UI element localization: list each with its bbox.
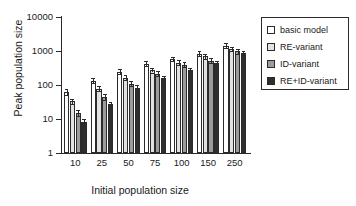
error-bar-cap	[198, 56, 202, 57]
x-axis-tick-label: 75	[150, 157, 161, 168]
error-bar-cap	[236, 54, 240, 55]
error-bar-cap	[135, 91, 139, 92]
error-bar-cap	[144, 61, 148, 62]
error-bar-cap	[129, 86, 133, 87]
y-axis-tick-label: 1000	[32, 46, 53, 55]
x-axis-tick-label: 10	[70, 157, 81, 168]
error-bar-cap	[91, 83, 95, 84]
error-bar-cap	[124, 75, 128, 76]
bar	[123, 78, 128, 153]
legend-item-label: ID-variant	[280, 59, 319, 69]
bar	[203, 56, 208, 153]
error-bar-cap	[224, 48, 228, 49]
bar	[229, 49, 234, 153]
legend-swatch-icon	[267, 43, 275, 51]
error-bar-cap	[150, 68, 154, 69]
error-bar-cap	[103, 94, 107, 95]
error-bar-cap	[198, 51, 202, 52]
error-bar-cap	[82, 119, 86, 120]
chart-figure: Peak population size Initial population …	[0, 0, 356, 206]
error-bar-cap	[162, 76, 166, 77]
error-bar-cap	[209, 58, 213, 59]
chart-legend: basic modelRE-variantID-variantRE+ID-var…	[261, 17, 349, 90]
error-bar-cap	[109, 107, 113, 108]
bar	[235, 51, 240, 153]
legend-swatch-icon	[267, 26, 275, 34]
bar	[208, 61, 213, 153]
bar	[161, 78, 166, 153]
error-bar-cap	[97, 86, 101, 87]
error-bar-cap	[215, 65, 219, 66]
bar	[96, 89, 101, 153]
bar	[214, 63, 219, 153]
error-bar-cap	[82, 126, 86, 127]
bar	[170, 59, 175, 153]
error-bar-cap	[97, 91, 101, 92]
error-bar-cap	[242, 51, 246, 52]
bar	[176, 63, 181, 153]
bar	[117, 72, 122, 153]
error-bar-cap	[171, 57, 175, 58]
error-bar-cap	[135, 85, 139, 86]
error-bar-cap	[65, 95, 69, 96]
error-bar-cap	[242, 55, 246, 56]
error-bar-cap	[156, 71, 160, 72]
bar	[197, 54, 202, 153]
error-bar-cap	[230, 47, 234, 48]
y-axis-tick-label: 10000	[27, 12, 53, 21]
y-axis-tick	[56, 153, 62, 154]
error-bar-cap	[236, 49, 240, 50]
legend-item: basic model	[267, 22, 348, 38]
error-bar-cap	[230, 51, 234, 52]
x-axis-line	[61, 153, 251, 154]
error-bar-cap	[129, 81, 133, 82]
error-bar-cap	[177, 60, 181, 61]
error-bar-cap	[65, 89, 69, 90]
x-axis-title: Initial population size	[40, 184, 240, 196]
legend-item-label: basic model	[280, 25, 328, 35]
error-bar-cap	[91, 78, 95, 79]
bar	[108, 104, 113, 153]
error-bar-cap	[124, 80, 128, 81]
x-axis-tick-label: 100	[174, 157, 190, 168]
bar	[135, 88, 140, 153]
plot-area	[62, 17, 248, 153]
legend-swatch-icon	[267, 77, 275, 85]
legend-item: RE-variant	[267, 39, 348, 55]
bar	[150, 70, 155, 153]
error-bar-cap	[209, 63, 213, 64]
legend-item-label: RE+ID-variant	[280, 76, 337, 86]
x-axis-tick-label: 150	[200, 157, 216, 168]
error-bar-cap	[76, 116, 80, 117]
error-bar-cap	[70, 99, 74, 100]
error-bar-cap	[183, 62, 187, 63]
error-bar-cap	[171, 61, 175, 62]
error-bar-cap	[215, 61, 219, 62]
bar	[241, 53, 246, 153]
error-bar-cap	[203, 54, 207, 55]
bar	[223, 46, 228, 153]
error-bar-cap	[156, 76, 160, 77]
y-axis-tick-label: 10	[42, 114, 53, 123]
error-bar-cap	[150, 73, 154, 74]
error-bar-cap	[188, 73, 192, 74]
error-bar-cap	[118, 74, 122, 75]
error-bar-cap	[203, 59, 207, 60]
bar	[144, 64, 149, 153]
legend-swatch-icon	[267, 60, 275, 68]
legend-item: RE+ID-variant	[267, 73, 348, 89]
error-bar-cap	[144, 66, 148, 67]
error-bar-cap	[109, 102, 113, 103]
error-bar-cap	[183, 67, 187, 68]
bar	[188, 70, 193, 153]
bar	[182, 65, 187, 153]
error-bar-cap	[177, 65, 181, 66]
bar	[81, 122, 86, 153]
error-bar-cap	[103, 100, 107, 101]
error-bar-cap	[162, 81, 166, 82]
bar	[64, 92, 69, 153]
y-axis-tick-label: 100	[37, 80, 53, 89]
bar	[155, 74, 160, 153]
x-axis-tick-label: 50	[123, 157, 134, 168]
bar	[91, 81, 96, 153]
